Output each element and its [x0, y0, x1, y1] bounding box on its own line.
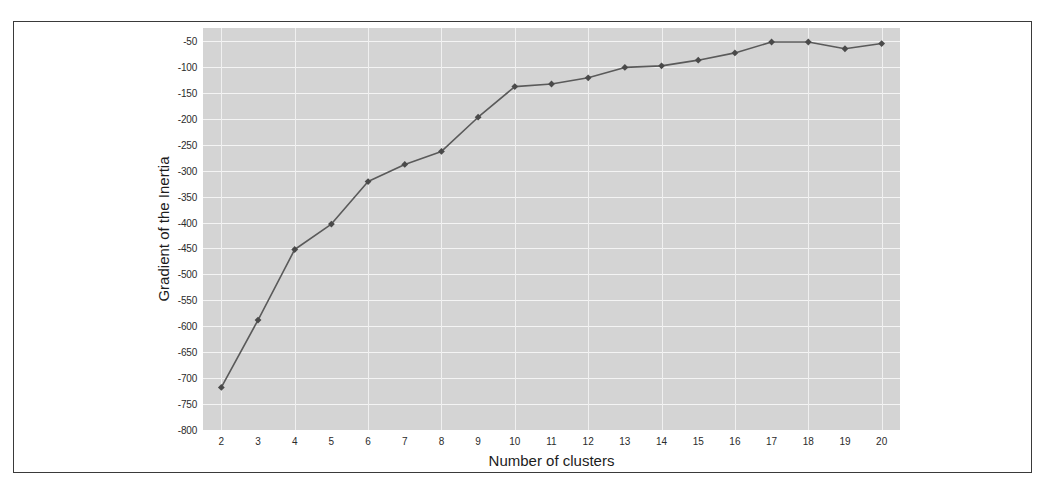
y-tick-label: -350	[178, 191, 197, 202]
plot-area	[203, 28, 900, 430]
x-tick-label: 11	[546, 436, 556, 447]
x-tick-label: 8	[439, 436, 445, 447]
y-tick-label: -100	[178, 61, 197, 72]
x-tick-label: 10	[509, 436, 520, 447]
data-point-marker	[805, 39, 812, 46]
data-point-marker	[621, 64, 628, 71]
x-tick-label: 6	[365, 436, 371, 447]
y-tick-label: -700	[178, 373, 197, 384]
data-point-marker	[401, 161, 408, 168]
x-tick-label: 9	[475, 436, 481, 447]
series-markers	[218, 39, 885, 391]
data-point-marker	[585, 74, 592, 81]
x-tick-label: 7	[402, 436, 408, 447]
y-tick-label: -650	[178, 347, 197, 358]
x-axis-title: Number of clusters	[203, 452, 900, 469]
x-tick-label: 18	[803, 436, 814, 447]
x-tick-label: 4	[292, 436, 298, 447]
y-tick-label: -500	[178, 269, 197, 280]
y-tick-label: -300	[178, 165, 197, 176]
x-tick-label: 3	[255, 436, 261, 447]
x-tick-label: 16	[729, 436, 740, 447]
y-tick-label: -750	[178, 399, 197, 410]
y-axis-title: Gradient of the Inertia	[152, 28, 176, 430]
y-tick-label: -600	[178, 321, 197, 332]
x-tick-label: 15	[693, 436, 704, 447]
x-tick-label: 12	[583, 436, 594, 447]
data-point-marker	[695, 57, 702, 64]
x-tick-label: 19	[839, 436, 850, 447]
data-point-marker	[732, 49, 739, 56]
x-tick-label: 13	[619, 436, 630, 447]
y-tick-label: -250	[178, 139, 197, 150]
x-tick-label: 2	[219, 436, 225, 447]
x-tick-label: 14	[656, 436, 667, 447]
data-point-marker	[768, 39, 775, 46]
data-point-marker	[842, 45, 849, 52]
y-tick-label: -550	[178, 295, 197, 306]
y-tick-label: -800	[178, 425, 197, 436]
x-tick-label: 5	[329, 436, 335, 447]
data-point-marker	[878, 40, 885, 47]
line-series-gradient-of-the-inertia	[203, 28, 900, 430]
data-point-marker	[218, 384, 225, 391]
y-tick-label: -50	[183, 35, 197, 46]
series-line	[221, 42, 881, 387]
data-point-marker	[255, 317, 262, 324]
x-axis-tick-labels: 234567891011121314151617181920	[203, 436, 900, 452]
y-tick-label: -450	[178, 243, 197, 254]
x-tick-label: 17	[766, 436, 777, 447]
x-tick-label: 20	[876, 436, 887, 447]
figure-root: -50-100-150-200-250-300-350-400-450-500-…	[0, 0, 1046, 493]
y-tick-label: -200	[178, 113, 197, 124]
data-point-marker	[548, 81, 555, 88]
y-tick-label: -400	[178, 217, 197, 228]
y-tick-label: -150	[178, 87, 197, 98]
data-point-marker	[658, 62, 665, 69]
